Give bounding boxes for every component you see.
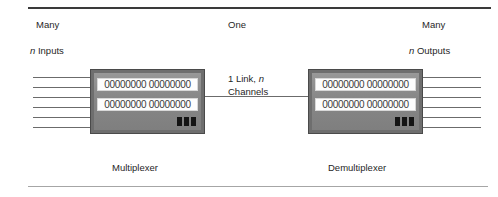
label-link-channels: 1 Link, n Channels <box>228 73 268 98</box>
link-line <box>205 96 309 97</box>
output-wire-1 <box>423 77 481 78</box>
demultiplexer-indicator-3 <box>409 117 414 126</box>
label-n-outputs-text: Outputs <box>414 45 450 56</box>
multiplexer-face: 00000000 00000000 00000000 00000000 <box>97 75 198 128</box>
input-wire-2 <box>33 87 91 88</box>
demultiplexer-face: 00000000 00000000 00000000 00000000 <box>315 75 416 128</box>
multiplexer-box: 00000000 00000000 00000000 00000000 <box>90 69 205 134</box>
demultiplexer-display-top: 00000000 00000000 <box>315 78 416 91</box>
label-many-right: Many <box>422 19 445 31</box>
multiplexer-display-top-text: 00000000 00000000 <box>104 79 191 90</box>
output-wire-5 <box>423 117 481 118</box>
input-wire-1 <box>33 77 91 78</box>
demultiplexer-display-bottom-text: 00000000 00000000 <box>322 99 409 110</box>
label-one-text: One <box>228 19 246 30</box>
multiplexer-indicator-group <box>177 117 196 126</box>
label-n-inputs-text: Inputs <box>35 45 64 56</box>
multiplexer-display-bottom-text: 00000000 00000000 <box>104 99 191 110</box>
output-wire-4 <box>423 107 481 108</box>
multiplexer-indicator-1 <box>177 117 182 126</box>
label-n-outputs: n Outputs <box>409 45 450 57</box>
multiplexer-display-bottom: 00000000 00000000 <box>97 98 198 111</box>
demultiplexer-indicator-2 <box>402 117 407 126</box>
label-many-right-text: Many <box>422 19 445 30</box>
output-wire-3 <box>423 97 481 98</box>
caption-demultiplexer-text: Demultiplexer <box>328 162 386 173</box>
top-divider-rule <box>28 7 491 9</box>
output-wire-2 <box>423 87 481 88</box>
input-wire-4 <box>33 107 91 108</box>
demultiplexer-indicator-1 <box>395 117 400 126</box>
input-wire-6 <box>33 127 91 128</box>
caption-multiplexer-text: Multiplexer <box>112 162 158 173</box>
label-n-inputs: n Inputs <box>30 45 64 57</box>
label-many-left: Many <box>36 19 59 31</box>
bottom-divider-rule <box>28 186 488 187</box>
input-wire-3 <box>33 97 91 98</box>
multiplexer-display-top: 00000000 00000000 <box>97 78 198 91</box>
demultiplexer-indicator-group <box>395 117 414 126</box>
demultiplexer-display-bottom: 00000000 00000000 <box>315 98 416 111</box>
caption-multiplexer: Multiplexer <box>112 162 158 173</box>
multiplexer-indicator-3 <box>191 117 196 126</box>
label-link-line2: Channels <box>228 86 268 97</box>
label-link-line1-variable: n <box>259 73 264 84</box>
demultiplexer-display-top-text: 00000000 00000000 <box>322 79 409 90</box>
caption-demultiplexer: Demultiplexer <box>328 162 386 173</box>
label-many-left-text: Many <box>36 19 59 30</box>
multiplexer-indicator-2 <box>184 117 189 126</box>
demultiplexer-box: 00000000 00000000 00000000 00000000 <box>308 69 423 134</box>
output-wire-6 <box>423 127 481 128</box>
label-link-line1-prefix: 1 Link, <box>228 73 259 84</box>
label-one-center: One <box>228 19 246 31</box>
figure-multiplexer-demultiplexer: Many n Inputs One Many n Outputs 1 Link,… <box>0 0 498 197</box>
input-wire-5 <box>33 117 91 118</box>
